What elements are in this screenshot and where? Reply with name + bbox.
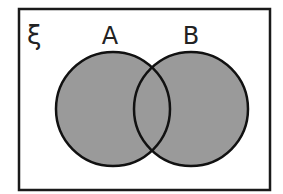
venn-diagram: ξ A B xyxy=(0,0,283,194)
universal-set-label: ξ xyxy=(27,20,42,50)
set-a-label: A xyxy=(102,22,119,50)
venn-diagram-canvas: ξ A B xyxy=(0,0,283,194)
set-b-label: B xyxy=(183,22,199,50)
